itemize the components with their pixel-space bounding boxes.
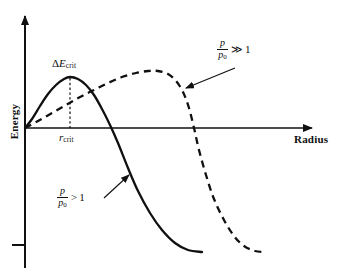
pressure-ratio-fraction-strong: p p0 [217,38,228,61]
denominator-subscript: 0 [223,53,227,61]
nucleation-energy-figure: Energy Radius ΔEcrit rcrit p p0 ≫ 1 p p0… [0,0,346,279]
series-label-greater: p p0 > 1 [57,186,85,209]
x-axis-title: Radius [294,134,328,145]
y-axis-title: Energy [9,92,20,152]
delta-e-crit-label: ΔEcrit [52,58,76,70]
r-crit-subscript: crit [63,135,73,144]
curve-p-over-p0-greater [25,77,202,252]
relation-value-strong: 1 [245,44,251,55]
delta-e-subscript: crit [66,61,76,70]
fraction-denominator: p0 [57,198,68,209]
fraction-numerator: p [219,38,226,48]
relation-value-weak: 1 [79,192,85,203]
strong-label-leader-line [186,68,235,88]
r-crit-label: rcrit [59,132,74,144]
curve-p-over-p0-much-greater [25,71,266,252]
fraction-denominator: p0 [217,50,228,61]
denominator-subscript: 0 [63,201,67,209]
relation-symbol-strong: ≫ [231,44,243,55]
pressure-ratio-fraction-weak: p p0 [57,186,68,209]
series-label-much-greater: p p0 ≫ 1 [217,38,251,61]
fraction-numerator: p [59,186,66,196]
energy-symbol: E [59,57,66,69]
relation-symbol-weak: > [71,192,77,203]
weak-label-leader-line [104,175,129,198]
